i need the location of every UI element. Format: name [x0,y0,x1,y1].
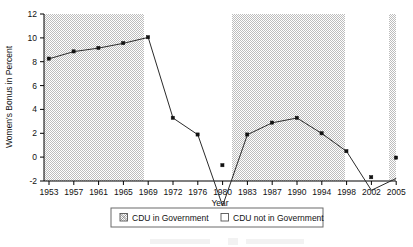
data-point-marker [320,132,323,135]
chart-figure: -2 0 2 4 6 8 10 12 1953 [0,0,413,247]
y-tick-label: 8 [32,57,37,67]
cropped-legend-artifact [150,238,304,245]
x-tick-label: 1969 [139,187,158,197]
y-tick-label: 12 [28,9,38,19]
legend-item-cdu-in-government[interactable]: CDU in Government [120,213,209,223]
data-point-marker [97,46,100,49]
x-tick-label: 1980 [213,187,232,197]
x-tick-label: 1994 [312,187,331,197]
x-tick-label: 1983 [238,187,257,197]
data-point-marker [246,133,249,136]
legend-label: CDU in Government [132,213,209,223]
shaded-bands-group [44,14,396,181]
womens-bonus-line-chart: -2 0 2 4 6 8 10 12 1953 [0,0,413,247]
data-point-marker [196,133,199,136]
legend: CDU in Government CDU not in Government [111,208,324,227]
x-tick-label: 1987 [263,187,282,197]
shaded-band-cdu-1982-1998 [232,14,345,181]
data-point-marker [72,50,75,53]
data-point-marker [122,42,125,45]
data-point-marker [394,156,397,159]
y-tick-label: 6 [32,81,37,91]
x-tick-label: 2005 [387,187,406,197]
legend-item-cdu-not-in-government[interactable]: CDU not in Government [221,213,324,223]
x-tick-label: 2002 [362,187,381,197]
y-tick-label: 4 [32,104,37,114]
data-point-marker [171,116,174,119]
x-tick-label: 1972 [164,187,183,197]
data-point-marker [295,116,298,119]
x-tick-label: 1998 [337,187,356,197]
y-tick-label: 2 [32,128,37,138]
y-axis-title: Women's Bonus in Percent [4,45,14,148]
data-point-marker [370,176,373,179]
data-point-marker [270,121,273,124]
y-ticks-group: -2 0 2 4 6 8 10 12 [28,9,44,186]
data-point-marker [345,150,348,153]
data-point-marker [47,57,50,60]
shaded-band-cdu-1953-1969 [44,14,144,181]
x-tick-label: 1953 [40,187,59,197]
y-tick-label: 10 [28,33,38,43]
y-tick-label: 0 [32,152,37,162]
x-tick-label: 1957 [64,187,83,197]
empty-square-icon [221,214,229,222]
x-ticks-group: 1953 1957 1961 1965 1969 1972 1976 1980 … [40,181,406,197]
x-tick-label: 1976 [188,187,207,197]
y-tick-label: -2 [29,176,37,186]
data-point-marker [146,36,149,39]
x-tick-label: 1961 [89,187,108,197]
legend-label: CDU not in Government [233,213,324,223]
x-tick-label: 1965 [114,187,133,197]
x-tick-label: 1990 [288,187,307,197]
data-point-marker [221,164,224,167]
